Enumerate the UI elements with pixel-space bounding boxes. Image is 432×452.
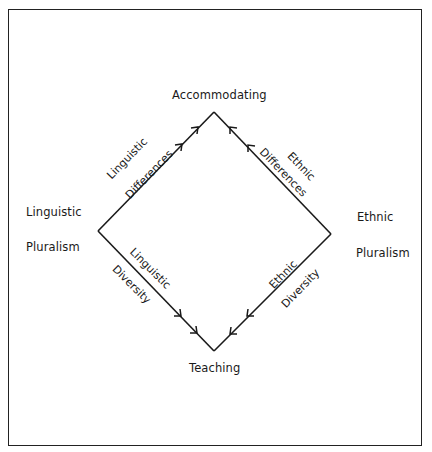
node-ethnic-pluralism-line2: Pluralism	[356, 246, 410, 260]
node-linguistic-pluralism-line1: Linguistic	[26, 205, 82, 219]
diamond-diagram	[0, 0, 432, 452]
node-accommodating: Accommodating	[172, 88, 267, 102]
node-ethnic-pluralism-line1: Ethnic	[357, 210, 393, 224]
node-teaching: Teaching	[189, 361, 240, 375]
node-linguistic-pluralism-line2: Pluralism	[26, 240, 80, 254]
